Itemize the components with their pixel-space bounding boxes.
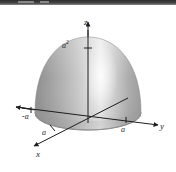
figure-container: z y x a2 a -a a <box>0 0 176 172</box>
x-axis-label: x <box>36 150 40 159</box>
tick-label-y-negative: -a <box>22 113 29 121</box>
surface-plot-canvas <box>0 0 176 172</box>
z-axis-label: z <box>84 18 88 27</box>
tick-label-y-positive: a <box>121 126 125 134</box>
tick-label-x-positive: a <box>42 129 46 137</box>
y-axis-label: y <box>160 122 164 131</box>
tick-label-z-apex-exponent: 2 <box>66 39 69 45</box>
surface-highlight <box>84 43 118 109</box>
y-axis-negative-arrow <box>16 107 30 109</box>
tick-label-z-apex: a2 <box>62 42 69 50</box>
